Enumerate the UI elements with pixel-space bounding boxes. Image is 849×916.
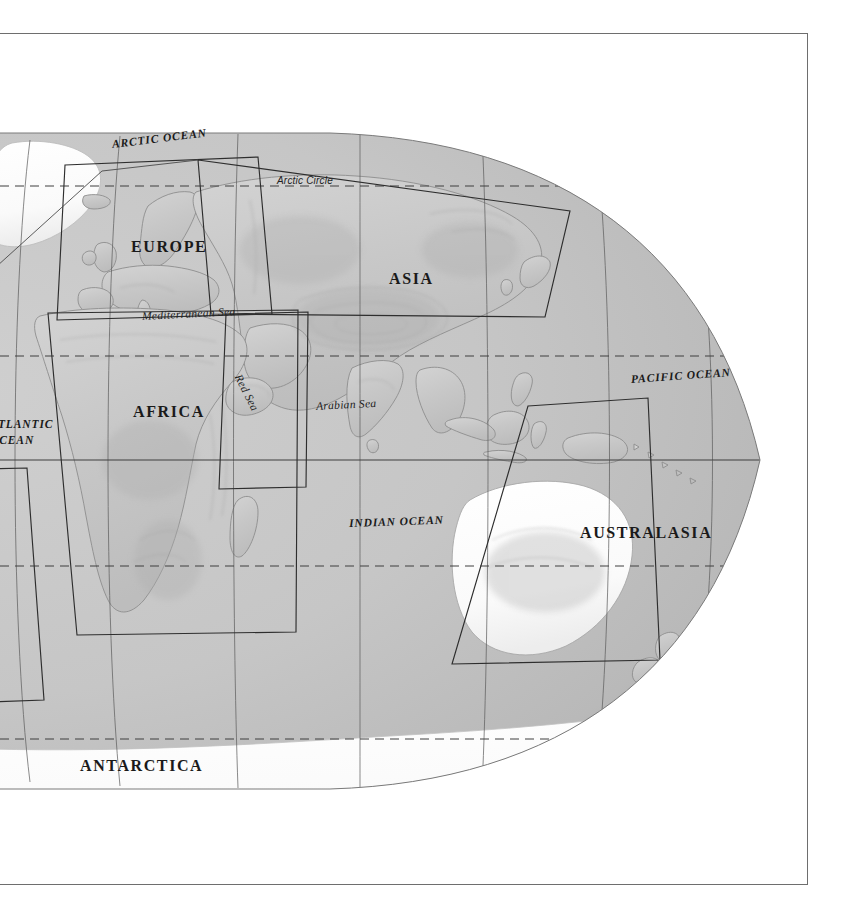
iceland bbox=[83, 195, 111, 209]
british-isles bbox=[93, 242, 116, 272]
ocean-label-atlantic-ocean-line1: ATLANTIC bbox=[0, 418, 53, 430]
ocean-label-atlantic-ocean-line2: OCEAN bbox=[0, 434, 34, 446]
continent-label-australasia: AUSTRALASIA bbox=[580, 524, 712, 542]
continent-label-asia: ASIA bbox=[389, 270, 434, 288]
continent-label-africa: AFRICA bbox=[133, 403, 205, 421]
continent-label-europe: EUROPE bbox=[131, 238, 207, 256]
ireland bbox=[82, 251, 96, 265]
sri-lanka bbox=[367, 440, 379, 453]
latitude-label-arctic-circle: Arctic Circle bbox=[277, 175, 333, 186]
korea bbox=[501, 280, 513, 296]
atlas-page: EUROPE ASIA AFRICA AUSTRALASIA ANTARCTIC… bbox=[0, 0, 849, 916]
continent-label-antarctica: ANTARCTICA bbox=[80, 757, 203, 775]
